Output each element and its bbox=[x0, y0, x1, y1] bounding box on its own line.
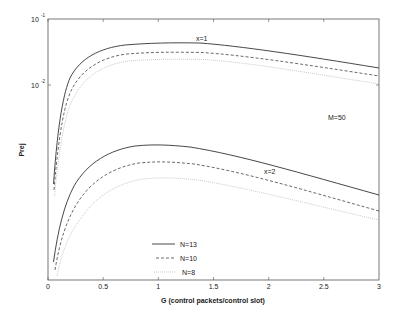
x-tick-2.5: 2.5 bbox=[319, 283, 329, 290]
x-tick-0.5: 0.5 bbox=[98, 283, 108, 290]
x-axis-label: G (control packets/control slot) bbox=[161, 297, 265, 305]
x-tick-0: 0 bbox=[46, 283, 50, 290]
annotation-m50: M=50 bbox=[328, 114, 346, 121]
y-tick-1e-1-exp: -1 bbox=[41, 13, 45, 18]
legend: N=13 N=10 N=8 bbox=[152, 241, 197, 276]
plot-frame bbox=[48, 19, 379, 280]
curve-x2-n8 bbox=[57, 178, 379, 276]
annotation-x2: x=2 bbox=[264, 168, 276, 175]
curve-x2-n13 bbox=[54, 145, 380, 262]
y-tick-1e-2-exp: -2 bbox=[41, 79, 45, 84]
x-tick-1: 1 bbox=[156, 283, 160, 290]
x-tick-labels: 0 0.5 1 1.5 2 2.5 3 bbox=[46, 283, 381, 290]
legend-label-n10: N=10 bbox=[180, 255, 197, 262]
curve-x2-n10 bbox=[55, 162, 379, 270]
curve-x1-n8 bbox=[55, 59, 380, 196]
x-tick-2: 2 bbox=[267, 283, 271, 290]
x-tick-1.5: 1.5 bbox=[209, 283, 219, 290]
curves-x2 bbox=[54, 145, 380, 276]
annotation-x1: x=1 bbox=[196, 35, 208, 42]
y-tick-labels: 10 -1 10 -2 bbox=[31, 13, 45, 89]
curve-x1-n10 bbox=[54, 52, 379, 190]
y-tick-1e-2-base: 10 bbox=[31, 82, 39, 89]
x-tick-3: 3 bbox=[377, 283, 381, 290]
chart-svg: 0 0.5 1 1.5 2 2.5 3 10 -1 10 -2 G (contr… bbox=[0, 0, 398, 318]
y-tick-1e-1-base: 10 bbox=[31, 16, 39, 23]
y-axis-label: Prej bbox=[18, 143, 26, 156]
legend-label-n13: N=13 bbox=[180, 241, 197, 248]
legend-label-n8: N=8 bbox=[182, 269, 195, 276]
